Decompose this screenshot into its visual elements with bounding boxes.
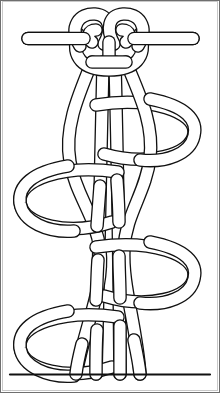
knot-diagram-canvas: .band-core { stroke: #ffffff; stroke-wid… bbox=[0, 0, 220, 393]
knot-drawing bbox=[10, 14, 210, 376]
top-knot bbox=[28, 14, 193, 70]
knot-figure-frame: .band-core { stroke: #ffffff; stroke-wid… bbox=[0, 0, 220, 393]
